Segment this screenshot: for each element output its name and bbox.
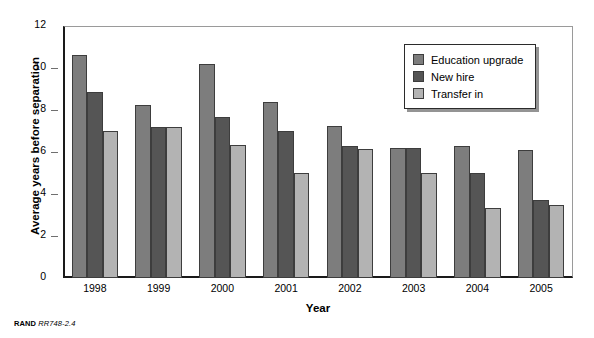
bar-group [254,26,318,278]
y-axis-tick-label: 8 [6,102,46,114]
bar [470,173,486,278]
bar [72,55,88,278]
y-axis-tick-label: 6 [6,144,46,156]
x-axis-tick-label: 2001 [254,282,318,294]
y-axis-tick-label: 4 [6,186,46,198]
y-axis-tick-mark [51,194,58,195]
legend-item: New hire [413,68,523,85]
y-axis-tick-mark [51,236,58,237]
chart-legend: Education upgradeNew hireTransfer in [404,44,536,109]
bar [294,173,310,278]
bar [278,131,294,278]
bar [103,131,119,278]
bar [151,127,167,278]
y-axis-tick-mark [51,110,58,111]
bar [166,127,182,278]
x-axis-tick-label: 2002 [318,282,382,294]
source-note: RAND RR748-2.4 [14,319,75,328]
y-axis-tick-mark [51,152,58,153]
bar [485,208,501,278]
legend-label: New hire [431,71,474,83]
y-axis-tick-label: 2 [6,228,46,240]
legend-item: Education upgrade [413,51,523,68]
bar [263,102,279,278]
bar-group [318,26,382,278]
legend-label: Transfer in [431,88,483,100]
x-axis-tick-label: 2003 [382,282,446,294]
bar [215,117,231,278]
bar [454,146,470,278]
bar [87,92,103,278]
bar [135,105,151,278]
bar [421,173,437,278]
y-axis-tick-label: 10 [6,60,46,72]
bar [549,205,565,279]
legend-swatch [413,71,424,82]
bar [390,148,406,278]
bar [533,200,549,278]
figure-container: Average years before separation 02468101… [0,0,594,338]
bar [406,148,422,278]
x-axis-tick-label: 1999 [127,282,191,294]
y-axis-tick-mark [51,68,58,69]
x-axis-title: Year [63,302,573,314]
bar-group [127,26,191,278]
x-axis-tick-label: 2004 [446,282,510,294]
legend-swatch [413,54,424,65]
x-axis-tick-label: 2000 [191,282,255,294]
source-identifier: RR748-2.4 [38,319,75,328]
legend-label: Education upgrade [431,54,523,66]
bar-group [191,26,255,278]
y-axis-tick-label: 0 [6,270,46,282]
bar [199,64,215,278]
bar [518,150,534,278]
legend-swatch [413,88,424,99]
x-axis-tick-label: 2005 [509,282,573,294]
bar-group [63,26,127,278]
source-organization: RAND [14,319,36,328]
x-axis-tick-label: 1998 [63,282,127,294]
bar [230,145,246,278]
y-axis-tick-label: 12 [6,18,46,30]
legend-item: Transfer in [413,85,523,102]
bar [342,146,358,278]
bar [358,149,374,278]
bar [327,126,343,278]
x-axis-tick-labels: 19981999200020012002200320042005 [63,282,573,298]
